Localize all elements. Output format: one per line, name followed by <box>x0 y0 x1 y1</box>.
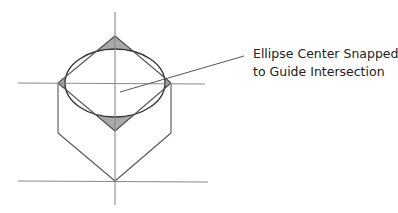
lower-horizontal-guide <box>18 181 208 182</box>
cube-bottom-left-edge <box>58 133 115 181</box>
upper-horizontal-guide <box>18 83 205 84</box>
callout-label: Ellipse Center Snapped to Guide Intersec… <box>253 45 398 81</box>
callout-line-2: to Guide Intersection <box>253 63 398 81</box>
callout-line-1: Ellipse Center Snapped <box>253 45 398 63</box>
cube-bottom-right-edge <box>115 133 171 181</box>
